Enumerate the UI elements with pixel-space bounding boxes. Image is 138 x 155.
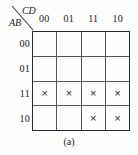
- cell-value: [57, 57, 80, 81]
- kmap-cell[interactable]: ×: [106, 106, 129, 130]
- column-header-row: 00 01 11 10: [32, 11, 130, 26]
- kmap-cell[interactable]: [57, 32, 81, 56]
- figure-caption: (a): [0, 136, 138, 147]
- kmap-cell[interactable]: [33, 106, 57, 130]
- cell-value: ×: [82, 82, 105, 106]
- kmap-cell[interactable]: ×: [33, 82, 57, 106]
- cell-value: [57, 32, 80, 56]
- row-header-3: 10: [8, 106, 30, 131]
- kmap-cell[interactable]: [33, 32, 57, 56]
- column-header-0: 00: [32, 11, 57, 26]
- table-row: × ×: [33, 106, 129, 130]
- column-header-1: 01: [57, 11, 82, 26]
- karnaugh-map-grid: × × × × × ×: [32, 31, 130, 131]
- kmap-cell[interactable]: [82, 32, 106, 56]
- cell-value: [33, 57, 56, 81]
- kmap-cell[interactable]: [57, 57, 81, 81]
- cell-value: [82, 32, 105, 56]
- row-header-2: 11: [8, 81, 30, 106]
- cell-value: ×: [106, 82, 129, 106]
- kmap-cell[interactable]: ×: [57, 82, 81, 106]
- kmap-cell[interactable]: ×: [106, 82, 129, 106]
- column-header-3: 10: [106, 11, 131, 26]
- table-row: [33, 32, 129, 57]
- kmap-cell[interactable]: [106, 32, 129, 56]
- cell-value: ×: [82, 106, 105, 130]
- kmap-cell[interactable]: [57, 106, 81, 130]
- row-variable-label: AB: [9, 17, 21, 28]
- row-header-column: 00 01 11 10: [8, 31, 30, 131]
- cell-value: [33, 106, 56, 130]
- cell-value: [82, 57, 105, 81]
- cell-value: [33, 32, 56, 56]
- cell-value: ×: [57, 82, 80, 106]
- row-header-1: 01: [8, 56, 30, 81]
- kmap-cell[interactable]: [33, 57, 57, 81]
- cell-value: [106, 57, 129, 81]
- column-header-2: 11: [81, 11, 106, 26]
- kmap-cell[interactable]: [106, 57, 129, 81]
- table-row: [33, 57, 129, 82]
- kmap-cell[interactable]: ×: [82, 106, 106, 130]
- cell-value: ×: [106, 106, 129, 130]
- kmap-cell[interactable]: ×: [82, 82, 106, 106]
- kmap-figure: CD AB 00 01 11 10 00 01 11 10 × ×: [0, 0, 138, 155]
- cell-value: ×: [33, 82, 56, 106]
- cell-value: [106, 32, 129, 56]
- cell-value: [57, 106, 80, 130]
- table-row: × × × ×: [33, 82, 129, 107]
- kmap-cell[interactable]: [82, 57, 106, 81]
- row-header-0: 00: [8, 31, 30, 56]
